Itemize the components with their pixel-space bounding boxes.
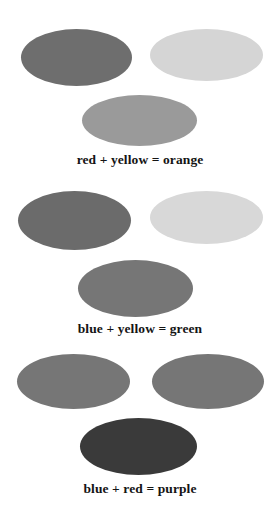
swatch-operand-b	[150, 191, 263, 244]
mixing-group-red-yellow-orange: red + yellow = orange	[0, 0, 280, 175]
swatch-operand-a	[21, 29, 132, 86]
group-caption: blue + red = purple	[0, 481, 280, 497]
group-caption: blue + yellow = green	[0, 321, 280, 337]
swatch-result	[78, 260, 193, 317]
swatch-operand-a	[17, 354, 130, 409]
mixing-group-blue-yellow-green: blue + yellow = green	[0, 175, 280, 345]
group-caption: red + yellow = orange	[0, 152, 280, 168]
colour-mixing-figure: red + yellow = orange blue + yellow = gr…	[0, 0, 280, 528]
swatch-result	[80, 418, 197, 475]
swatch-operand-b	[152, 354, 264, 409]
swatch-result	[82, 95, 197, 146]
swatch-operand-b	[150, 29, 263, 81]
mixing-group-blue-red-purple: blue + red = purple	[0, 345, 280, 528]
swatch-operand-a	[18, 191, 131, 250]
